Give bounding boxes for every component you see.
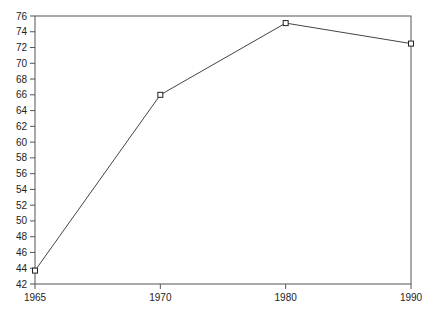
plot-frame	[35, 16, 411, 284]
x-tick-label: 1970	[149, 292, 172, 303]
data-point-1990	[409, 41, 414, 46]
data-point-1980	[283, 21, 288, 26]
y-tick-label: 48	[16, 231, 28, 242]
data-point-1965	[33, 268, 38, 273]
y-tick-label: 62	[16, 121, 28, 132]
y-tick-label: 60	[16, 137, 28, 148]
y-tick-label: 58	[16, 152, 28, 163]
x-tick-label: 1965	[24, 292, 47, 303]
y-tick-label: 54	[16, 184, 28, 195]
line-chart: 424446485052545658606264666870727476 196…	[0, 0, 429, 312]
y-tick-label: 66	[16, 89, 28, 100]
series-group	[33, 21, 414, 274]
x-tick-label: 1980	[275, 292, 298, 303]
series-line	[35, 23, 411, 271]
x-axis: 1965197019801990	[24, 284, 423, 303]
y-tick-label: 70	[16, 58, 28, 69]
x-tick-label: 1990	[400, 292, 423, 303]
y-tick-label: 50	[16, 215, 28, 226]
y-tick-label: 46	[16, 247, 28, 258]
y-tick-label: 68	[16, 74, 28, 85]
y-tick-label: 44	[16, 263, 28, 274]
y-tick-label: 56	[16, 168, 28, 179]
y-tick-label: 52	[16, 200, 28, 211]
y-tick-label: 76	[16, 11, 28, 22]
data-point-1970	[158, 92, 163, 97]
y-tick-label: 64	[16, 105, 28, 116]
y-tick-label: 74	[16, 26, 28, 37]
y-axis: 424446485052545658606264666870727476	[16, 11, 35, 290]
y-tick-label: 42	[16, 279, 28, 290]
y-tick-label: 72	[16, 42, 28, 53]
